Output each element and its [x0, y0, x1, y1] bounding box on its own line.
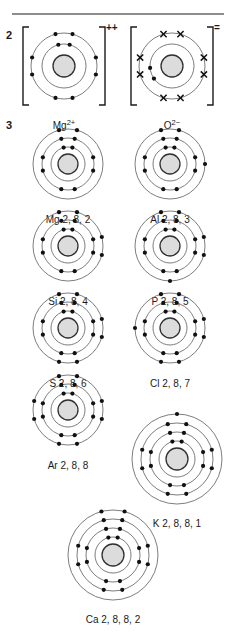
electron-cross — [160, 95, 166, 101]
electron-dot — [161, 269, 165, 273]
electron-dot — [143, 155, 147, 159]
electron-dot — [182, 431, 186, 435]
electron-cross — [137, 71, 143, 77]
electron-dot — [59, 351, 63, 355]
electron-dot — [59, 187, 63, 191]
electron-dot — [75, 210, 79, 214]
electron-dot — [57, 210, 61, 214]
electron-dot — [91, 251, 95, 255]
argon-atom-svg — [14, 356, 122, 464]
electron-dot — [59, 383, 63, 387]
nucleus — [53, 55, 75, 77]
electron-dot — [76, 544, 80, 548]
electron-dot — [30, 55, 34, 59]
electron-dot — [91, 401, 95, 405]
electron-dot — [193, 333, 197, 337]
electron-dot — [73, 137, 77, 141]
electron-dot — [59, 301, 63, 305]
calcium-atom: Ca 2, 8, 8, 2 — [50, 492, 176, 618]
chlorine-atom: Cl 2, 8, 7 — [116, 274, 224, 382]
electron-dot — [175, 137, 179, 141]
electron-dot — [193, 169, 197, 173]
electron-dot — [168, 431, 172, 435]
electron-cross — [177, 95, 183, 101]
electron-dot — [172, 227, 176, 231]
electron-dot — [73, 301, 77, 305]
electron-dot — [202, 235, 206, 239]
electron-dot — [146, 544, 150, 548]
nucleus — [58, 318, 78, 338]
electron-dot — [161, 219, 165, 223]
bracket-right — [207, 27, 213, 105]
electron-dot — [146, 562, 150, 566]
electron-dot — [149, 464, 153, 468]
electron-dot — [62, 391, 66, 395]
nucleus — [58, 154, 78, 174]
chlorine-atom-label: Cl 2, 8, 7 — [116, 378, 224, 389]
electron-dot — [73, 187, 77, 191]
electron-dot — [143, 169, 147, 173]
electron-dot — [159, 292, 163, 296]
electron-dot — [177, 292, 181, 296]
electron-dot — [75, 442, 79, 446]
electron-dot — [68, 43, 72, 47]
electron-dot — [53, 32, 57, 36]
electron-dot — [152, 76, 156, 80]
electron-dot — [201, 464, 205, 468]
electron-dot — [62, 145, 66, 149]
electron-dot — [172, 309, 176, 313]
electron-dot — [203, 162, 207, 166]
electron-dot — [193, 319, 197, 323]
nucleus — [166, 448, 188, 470]
electron-dot — [120, 518, 124, 522]
electron-dot — [137, 560, 141, 564]
electron-dot — [41, 415, 45, 419]
electron-dot — [202, 317, 206, 321]
electron-dot — [62, 309, 66, 313]
electron-dot — [70, 309, 74, 313]
electron-dot — [59, 137, 63, 141]
electron-dot — [100, 417, 104, 421]
electron-dot — [70, 391, 74, 395]
electron-dot — [175, 187, 179, 191]
electron-dot — [75, 374, 79, 378]
electron-cross — [177, 31, 183, 37]
electron-dot — [159, 128, 163, 132]
chlorine-atom-svg — [116, 274, 224, 382]
electron-dot — [180, 440, 184, 444]
worksheet-page: 2 3 ++Mg2+=O2− Mg 2, 8, 2Al 2, 8, 3Si 2,… — [0, 0, 232, 643]
electron-dot — [73, 351, 77, 355]
electron-dot — [59, 219, 63, 223]
bracket-left — [23, 27, 29, 105]
electron-dot — [30, 72, 34, 76]
electron-dot — [59, 269, 63, 273]
oxide-ion-charge: = — [214, 23, 220, 33]
electron-dot — [91, 333, 95, 337]
electron-dot — [159, 360, 163, 364]
electron-dot — [41, 155, 45, 159]
electron-dot — [164, 227, 168, 231]
oxide-ion: =O2− — [114, 8, 230, 124]
electron-dot — [91, 155, 95, 159]
electron-dot — [193, 155, 197, 159]
electron-dot — [177, 360, 181, 364]
electron-dot — [133, 326, 137, 330]
electron-dot — [102, 588, 106, 592]
electron-dot — [53, 96, 57, 100]
bracket-right — [99, 27, 105, 105]
electron-dot — [118, 579, 122, 583]
electron-dot — [59, 433, 63, 437]
electron-dot — [175, 351, 179, 355]
electron-dot — [57, 128, 61, 132]
electron-dot — [91, 415, 95, 419]
electron-cross — [137, 54, 143, 60]
electron-dot — [202, 253, 206, 257]
magnesium-ion: ++Mg2+ — [6, 8, 122, 124]
electron-cross — [201, 71, 207, 77]
electron-dot — [57, 374, 61, 378]
argon-atom: Ar 2, 8, 8 — [14, 356, 122, 464]
nucleus — [160, 154, 180, 174]
electron-dot — [94, 72, 98, 76]
electron-dot — [161, 301, 165, 305]
electron-dot — [172, 145, 176, 149]
